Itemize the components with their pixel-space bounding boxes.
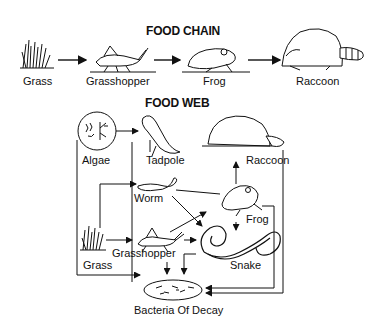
chain-label-frog: Frog [203, 75, 226, 87]
web-label-algae: Algae [82, 154, 110, 166]
web-bacteria-icon [144, 280, 202, 300]
web-label-raccoon: Raccoon [246, 154, 289, 166]
chain-raccoon-icon [282, 29, 363, 70]
web-worm-icon [138, 178, 177, 191]
web-snake-icon [201, 226, 280, 259]
chain-grass-icon [20, 40, 54, 68]
chain-grasshopper-icon [90, 46, 156, 72]
web-frog-icon [222, 186, 262, 216]
web-label-worm: Worm [134, 192, 163, 204]
food-chain-title: FOOD CHAIN [146, 24, 220, 38]
web-label-frog: Frog [246, 213, 269, 225]
web-label-grass: Grass [83, 259, 112, 271]
chain-label-grass: Grass [23, 75, 52, 87]
chain-label-grasshopper: Grasshopper [86, 75, 150, 87]
web-raccoon-icon [202, 116, 284, 147]
web-label-bacteria: Bacteria Of Decay [134, 304, 223, 316]
web-tadpole-icon [142, 116, 180, 156]
diagram-canvas [0, 0, 385, 332]
web-grass-icon [80, 226, 106, 250]
chain-label-raccoon: Raccoon [296, 75, 339, 87]
web-label-grasshopper: Grasshopper [112, 247, 176, 259]
food-web-title: FOOD WEB [145, 96, 209, 110]
web-label-tadpole: Tadpole [146, 154, 185, 166]
web-label-snake: Snake [230, 259, 261, 271]
chain-frog-icon [182, 49, 250, 72]
web-algae-icon [78, 112, 116, 150]
